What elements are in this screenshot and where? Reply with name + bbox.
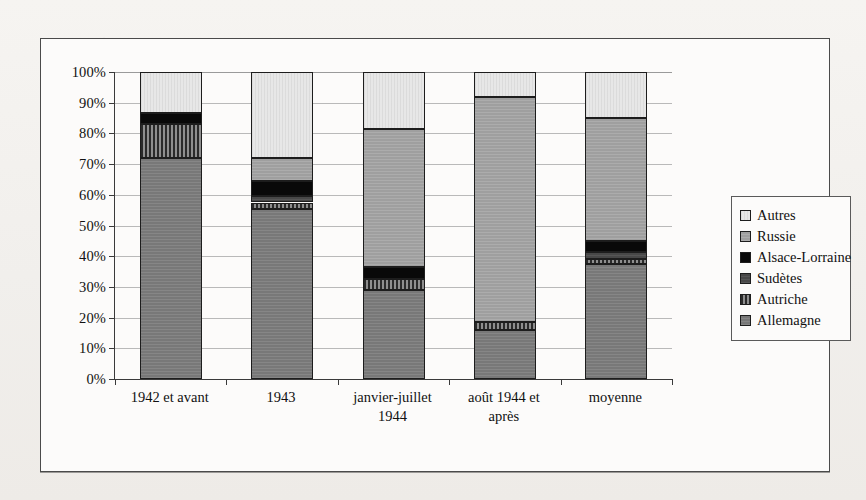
bar-segment-russie[interactable] xyxy=(363,129,425,267)
bar-segment-allemagne[interactable] xyxy=(585,264,647,379)
x-tick-2 xyxy=(338,379,339,385)
legend-item-label: Russie xyxy=(757,228,796,245)
bar-segment-allemagne[interactable] xyxy=(140,158,202,379)
y-tick-60 xyxy=(109,195,115,196)
x-tick-1 xyxy=(226,379,227,385)
bar-segment-autres[interactable] xyxy=(140,72,202,113)
bar-segment-allemagne[interactable] xyxy=(474,330,536,379)
bar-segment-alsace-lorraine[interactable] xyxy=(363,267,425,279)
bar-segment-autres[interactable] xyxy=(251,72,313,158)
legend-swatch-icon xyxy=(740,210,751,221)
bar-janvier-juillet-1944[interactable] xyxy=(363,72,425,379)
bar-segment-alsace-lorraine[interactable] xyxy=(251,181,313,196)
y-axis-label-70: 70% xyxy=(79,156,106,173)
bar-segment-russie[interactable] xyxy=(474,97,536,323)
x-tick-3 xyxy=(449,379,450,385)
bar-segment-autres[interactable] xyxy=(363,72,425,129)
bar-1943[interactable] xyxy=(251,72,313,379)
bar-ao-t-1944-et-apr-s[interactable] xyxy=(474,72,536,379)
bar-segment-russie[interactable] xyxy=(585,118,647,241)
x-tick-0 xyxy=(115,379,116,385)
y-axis-label-100: 100% xyxy=(72,64,106,81)
legend-item-sud-tes[interactable]: Sudètes xyxy=(740,268,843,289)
y-axis-label-40: 40% xyxy=(79,248,106,265)
bar-1942-et-avant[interactable] xyxy=(140,72,202,379)
y-axis-label-30: 30% xyxy=(79,278,106,295)
legend-item-label: Autres xyxy=(757,207,796,224)
bar-segment-autriche[interactable] xyxy=(140,124,202,158)
legend-item-label: Allemagne xyxy=(757,312,821,329)
y-axis-label-80: 80% xyxy=(79,125,106,142)
legend-swatch-icon xyxy=(740,315,751,326)
x-tick-end xyxy=(672,379,673,385)
y-tick-30 xyxy=(109,287,115,288)
y-tick-80 xyxy=(109,133,115,134)
y-axis-label-10: 10% xyxy=(79,340,106,357)
bar-segment-sud-tes[interactable] xyxy=(585,252,647,260)
bar-segment-alsace-lorraine[interactable] xyxy=(585,241,647,252)
legend-swatch-icon xyxy=(740,252,751,263)
legend-swatch-icon xyxy=(740,294,751,305)
y-axis-label-60: 60% xyxy=(79,186,106,203)
bar-segment-russie[interactable] xyxy=(251,158,313,181)
bar-segment-allemagne[interactable] xyxy=(363,290,425,379)
legend-item-label: Sudètes xyxy=(757,270,802,287)
bar-segment-sud-tes[interactable] xyxy=(251,196,313,202)
legend-item-autriche[interactable]: Autriche xyxy=(740,289,843,310)
legend-item-autres[interactable]: Autres xyxy=(740,205,843,226)
legend-swatch-icon xyxy=(740,273,751,284)
y-tick-70 xyxy=(109,164,115,165)
y-tick-50 xyxy=(109,226,115,227)
bar-segment-autriche[interactable] xyxy=(585,259,647,264)
bar-moyenne[interactable] xyxy=(585,72,647,379)
bar-segment-autriche[interactable] xyxy=(363,279,425,290)
legend-item-label: Alsace-Lorraine xyxy=(757,249,851,266)
legend-item-alsace-lorraine[interactable]: Alsace-Lorraine xyxy=(740,247,843,268)
bar-segment-autres[interactable] xyxy=(585,72,647,118)
bar-segment-alsace-lorraine[interactable] xyxy=(140,113,202,124)
bar-segment-autriche[interactable] xyxy=(474,322,536,330)
y-tick-20 xyxy=(109,318,115,319)
y-tick-100 xyxy=(109,72,115,73)
y-tick-40 xyxy=(109,256,115,257)
legend-item-label: Autriche xyxy=(757,291,808,308)
chart-frame: 0%10%20%30%40%50%60%70%80%90%100% 1942 e… xyxy=(40,38,830,472)
y-tick-90 xyxy=(109,103,115,104)
y-axis-label-90: 90% xyxy=(79,94,106,111)
plot-area: 0%10%20%30%40%50%60%70%80%90%100% xyxy=(114,72,672,380)
bar-segment-autres[interactable] xyxy=(474,72,536,97)
y-axis-label-20: 20% xyxy=(79,309,106,326)
legend-swatch-icon xyxy=(740,231,751,242)
legend-item-russie[interactable]: Russie xyxy=(740,226,843,247)
x-tick-4 xyxy=(561,379,562,385)
bar-segment-autriche[interactable] xyxy=(251,203,313,209)
chart-legend: AutresRussieAlsace-LorraineSudètesAutric… xyxy=(731,196,851,341)
x-axis-label-4: moyenne xyxy=(540,388,690,407)
y-axis-label-0: 0% xyxy=(86,371,106,388)
y-tick-10 xyxy=(109,348,115,349)
y-axis-label-50: 50% xyxy=(79,217,106,234)
bar-segment-allemagne[interactable] xyxy=(251,209,313,379)
legend-item-allemagne[interactable]: Allemagne xyxy=(740,310,843,331)
